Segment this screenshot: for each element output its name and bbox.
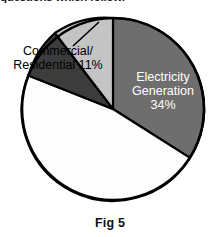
figure-caption: Fig 5 [0,216,220,230]
pie-label-industry: Industry 20% [33,110,107,138]
figure-fig-5: Electricity Generation 34% Industry 20% … [0,0,220,237]
pie-label-commercial-residential: Commercial/ Residential 11% [2,44,114,72]
pie-label-electricity-generation: Electricity Generation 34% [124,70,202,112]
